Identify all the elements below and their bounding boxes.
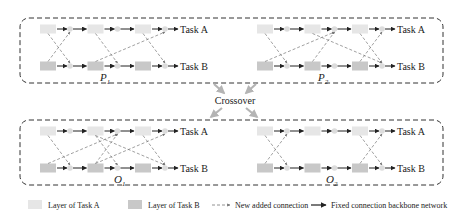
- output-task-a-label: Task A: [397, 126, 426, 137]
- layer-task-b: [305, 164, 321, 173]
- merge-node: [115, 128, 121, 134]
- layer-task-b: [257, 62, 273, 71]
- layer-task-b: [40, 62, 56, 71]
- merge-node: [115, 165, 121, 171]
- merge-node: [67, 63, 73, 69]
- output-task-a-label: Task A: [397, 24, 426, 35]
- merge-node: [67, 128, 73, 134]
- layer-task-a: [88, 127, 104, 136]
- crossover-arrow-from-p2: [246, 84, 256, 93]
- merge-node: [332, 165, 338, 171]
- new-added-connection-arrow: [313, 34, 383, 64]
- layer-task-b: [135, 62, 151, 71]
- merge-node: [379, 26, 385, 32]
- merge-node: [115, 63, 121, 69]
- network-o2: Task ATask BO2: [257, 126, 426, 189]
- new-added-connection-arrow: [360, 34, 382, 64]
- new-added-connection-arrow: [313, 32, 335, 62]
- layer-task-b: [88, 164, 104, 173]
- merge-node: [162, 128, 168, 134]
- merge-node: [284, 26, 290, 32]
- layer-task-a: [135, 25, 151, 34]
- layer-task-b: [135, 164, 151, 173]
- layer-task-a: [88, 25, 104, 34]
- new-added-connection-arrow: [96, 32, 166, 62]
- merge-node: [379, 128, 385, 134]
- merge-node: [115, 26, 121, 32]
- output-task-b-label: Task B: [180, 163, 208, 174]
- network-p1: Task ATask BP1: [40, 24, 209, 87]
- layer-task-b: [352, 62, 368, 71]
- merge-node: [284, 128, 290, 134]
- new-added-connection-arrow: [96, 136, 166, 166]
- crossover-diagram: Task ATask BP1Task ATask BP2Task ATask B…: [0, 0, 464, 217]
- legend-layer-b-swatch: [128, 200, 142, 209]
- merge-node: [284, 165, 290, 171]
- merge-node: [67, 165, 73, 171]
- output-task-a-label: Task A: [180, 126, 209, 137]
- layer-task-a: [257, 25, 273, 34]
- layer-task-a: [352, 25, 368, 34]
- merge-node: [162, 26, 168, 32]
- layer-task-b: [352, 164, 368, 173]
- layer-task-a: [40, 127, 56, 136]
- network-label-o1: O1: [114, 173, 125, 188]
- network-label-o2: O2: [326, 173, 338, 188]
- new-added-connection-arrow: [96, 134, 166, 164]
- legend-layer-a-swatch: [28, 200, 42, 209]
- layer-task-a: [352, 127, 368, 136]
- layer-task-a: [40, 25, 56, 34]
- legend-fixed-connection-label: Fixed connection backbone network: [331, 201, 447, 210]
- layer-task-a: [305, 127, 321, 136]
- merge-node: [379, 165, 385, 171]
- new-added-connection-arrow: [360, 32, 382, 62]
- legend: Layer of Task A Layer of Task B New adde…: [28, 200, 447, 210]
- merge-node: [162, 165, 168, 171]
- new-added-connection-arrow: [48, 34, 70, 64]
- new-added-connection-arrow: [265, 34, 287, 64]
- new-added-connection-arrow: [48, 136, 70, 166]
- layer-task-b: [305, 62, 321, 71]
- merge-node: [332, 26, 338, 32]
- new-added-connection-arrow: [96, 34, 118, 64]
- new-added-connection-arrow: [265, 32, 335, 62]
- new-added-connection-arrow: [48, 134, 118, 164]
- legend-new-connection-label: New added connection: [235, 201, 308, 210]
- network-label-p1: P1: [99, 71, 110, 86]
- merge-node: [284, 63, 290, 69]
- merge-node: [67, 26, 73, 32]
- merge-node: [332, 63, 338, 69]
- crossover-arrow-from-p1: [214, 84, 224, 93]
- merge-node: [162, 63, 168, 69]
- output-task-b-label: Task B: [397, 163, 425, 174]
- layer-task-b: [257, 164, 273, 173]
- network-p2: Task ATask BP2: [257, 24, 426, 87]
- new-added-connection-arrow: [48, 32, 70, 62]
- network-o1: Task ATask BO1: [40, 126, 209, 189]
- new-added-connection-arrow: [143, 136, 165, 166]
- output-task-b-label: Task B: [180, 61, 208, 72]
- new-added-connection-arrow: [360, 134, 382, 164]
- legend-layer-b-label: Layer of Task B: [148, 201, 200, 210]
- layer-task-a: [135, 127, 151, 136]
- output-task-b-label: Task B: [397, 61, 425, 72]
- new-added-connection-arrow: [265, 136, 287, 166]
- new-added-connection-arrow: [360, 136, 382, 166]
- layer-task-b: [88, 62, 104, 71]
- merge-node: [332, 128, 338, 134]
- legend-layer-a-label: Layer of Task A: [48, 201, 100, 210]
- layer-task-a: [305, 25, 321, 34]
- crossover-label: Crossover: [215, 95, 256, 106]
- layer-task-b: [40, 164, 56, 173]
- output-task-a-label: Task A: [180, 24, 209, 35]
- crossover-arrow-to-o2: [246, 108, 257, 117]
- new-added-connection-arrow: [143, 34, 165, 64]
- new-added-connection-arrow: [265, 134, 287, 164]
- merge-node: [379, 63, 385, 69]
- layer-task-a: [257, 127, 273, 136]
- network-label-p2: P2: [317, 71, 329, 86]
- crossover-arrow-to-o1: [211, 108, 222, 117]
